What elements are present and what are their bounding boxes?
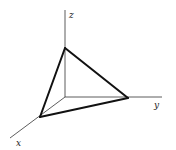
x-axis-label: x — [16, 138, 21, 148]
edge-z-to-y — [65, 48, 128, 98]
y-axis-label: y — [153, 100, 160, 110]
x-axis — [10, 97, 65, 138]
tetrahedron-diagram: z y x — [0, 0, 176, 150]
edge-y-to-x — [40, 98, 128, 117]
z-axis-label: z — [68, 10, 74, 20]
